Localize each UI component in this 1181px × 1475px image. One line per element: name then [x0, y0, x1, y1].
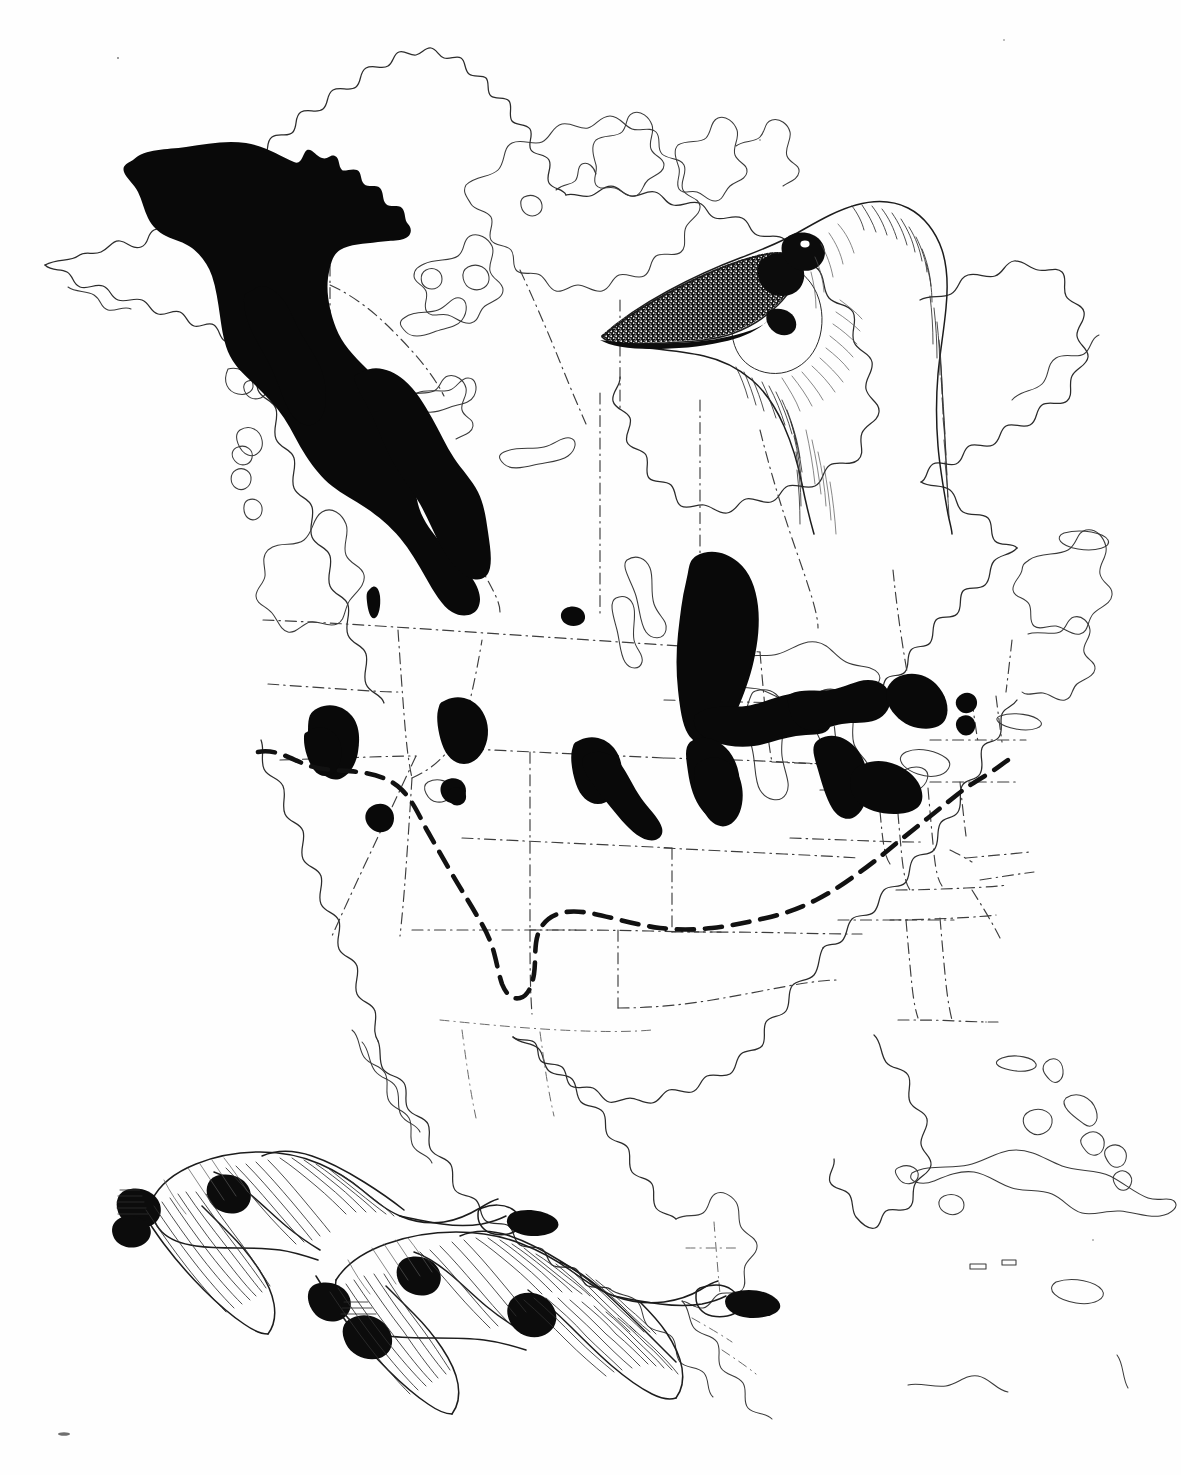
boundary-az-nm: [530, 930, 532, 1014]
illustration-swan-head-portrait: [595, 202, 952, 534]
island-haida-gwaii: [237, 428, 263, 456]
boundary-wy-co: [462, 838, 672, 848]
coast-aleutians: [68, 287, 131, 310]
front-swan-far-wing: [460, 1232, 602, 1291]
coast-long-island: [997, 714, 1042, 730]
coast-baja-inner: [362, 1042, 420, 1132]
boundary-va-nc: [966, 852, 1030, 858]
boundary-central-america-a: [692, 1318, 732, 1342]
boundary-ks-ok: [672, 932, 862, 934]
flying-swan-front: [308, 1232, 780, 1415]
boundary-me-nh: [1006, 640, 1012, 692]
island-bahama-c: [1064, 1095, 1097, 1126]
rear-swan-wrist-black: [207, 1174, 251, 1213]
island-victoria: [465, 116, 701, 291]
island-bahama-b: [1043, 1059, 1063, 1083]
island-small-arctic-a: [521, 195, 542, 215]
boundary-nv-ca: [332, 756, 416, 936]
boundary-ms-al: [906, 920, 918, 1018]
island-bahama-a: [996, 1056, 1036, 1071]
coast-gulf-st-lawrence: [921, 482, 1017, 548]
swan-neck-front-outline: [602, 336, 814, 534]
island-bc-small-a: [231, 469, 251, 490]
island-baffin-west: [556, 163, 596, 190]
coast-florida-gulf: [513, 948, 823, 1103]
island-small-arctic-b: [421, 269, 442, 289]
range-michigan-upper: [788, 680, 891, 730]
range-alberta-dot-a: [367, 586, 381, 618]
boundary-central-america-b: [722, 1350, 756, 1374]
island-bahama-g: [1113, 1171, 1131, 1190]
swan-crown-hatching: [852, 205, 932, 302]
swan-bill-notch: [766, 309, 796, 336]
island-bahama-d: [1023, 1109, 1052, 1134]
coast-nova-scotia: [1022, 617, 1095, 701]
map-layer: [45, 48, 1176, 1419]
boundary-ky-tn: [896, 885, 1008, 890]
boundary-yucatan-a: [714, 1222, 720, 1294]
coast-panama: [908, 1376, 1008, 1392]
coast-mexico-gulf: [513, 1037, 676, 1219]
boundary-ga-sc: [972, 890, 1000, 938]
boundary-mexico-vertical-a: [462, 1030, 476, 1118]
scan-speck-c: [985, 1021, 987, 1023]
scan-speck-d: [1092, 1239, 1094, 1241]
coast-greenland: [1012, 335, 1099, 400]
boundary-mexico-north: [440, 1020, 652, 1032]
swan-eye-highlight: [800, 241, 809, 248]
island-jamaica: [1052, 1280, 1104, 1304]
boundary-al-ga: [940, 918, 952, 1020]
island-queen-elizabeth-b: [675, 117, 747, 201]
rear-swan-body-outline: [152, 1152, 498, 1223]
front-swan-rear-wing-hatching: [524, 1298, 678, 1376]
lake-okeechobee: [895, 1166, 918, 1184]
island-bc-small-b: [244, 499, 262, 520]
island-bahama-f: [1105, 1145, 1127, 1167]
swan-neck-hatching-right: [930, 296, 949, 517]
lake-athabasca: [500, 438, 576, 468]
boundary-in-oh: [928, 788, 942, 886]
range-alberta-dot-b: [561, 606, 585, 626]
range-newyork-dot-b: [956, 715, 975, 735]
figure-page: [0, 0, 1181, 1475]
island-isle-of-youth: [939, 1195, 964, 1215]
boundary-manitoba-ontario: [760, 430, 818, 628]
boundary-ga-fl: [898, 1020, 998, 1022]
range-nevada-outlier: [365, 804, 394, 833]
coast-south-america-tip: [1117, 1355, 1128, 1388]
boundary-nc-sc: [980, 872, 1034, 880]
coast-us-atlantic: [823, 700, 1017, 948]
coast-baja-california: [352, 1030, 432, 1163]
boundary-ne-ks: [664, 848, 858, 858]
boundary-nwt-nunavut: [520, 270, 586, 424]
coast-florida-peninsula: [829, 1035, 931, 1228]
boundary-ok-tx: [618, 980, 838, 1008]
lake-manitoba: [612, 596, 642, 668]
range-montana-yellowstone: [437, 697, 488, 764]
boundary-wv-va: [950, 850, 972, 862]
island-small-arctic-c: [463, 265, 489, 290]
coast-new-england: [861, 548, 1017, 709]
boundary-mexico-vertical-b: [540, 1032, 554, 1116]
island-newfoundland: [1013, 530, 1112, 635]
scan-speck-a: [117, 57, 119, 59]
figure-canvas: [0, 0, 1181, 1475]
front-swan-rear-wing-top: [560, 1262, 676, 1362]
boundary-tn-ms-al: [890, 915, 996, 920]
boundary-wa-or: [268, 684, 398, 692]
rear-swan-wingtip-edge: [202, 1206, 275, 1334]
lake-winnipeg: [625, 557, 666, 638]
illustration-flying-swans-pair: [112, 1152, 780, 1415]
front-swan-wingtip-edge: [386, 1286, 459, 1414]
island-bahama-e: [1081, 1132, 1105, 1155]
coast-us-pacific: [261, 740, 378, 1041]
scan-speck-b: [1003, 39, 1005, 41]
range-ontario-newyork: [886, 674, 947, 729]
island-queen-elizabeth-a: [593, 112, 664, 196]
island-banks: [414, 235, 503, 324]
scan-speck-e: [759, 139, 761, 141]
scan-speck-bottom-left: [58, 1432, 70, 1436]
lake-great-bear: [400, 298, 466, 336]
swan-head-outline: [602, 202, 952, 534]
front-swan-rear-wing-black: [507, 1293, 556, 1337]
